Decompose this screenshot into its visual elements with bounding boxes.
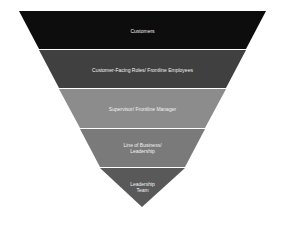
label-supervisor: Supervisor/ Frontline Manager	[0, 106, 285, 112]
label-customers: Customers	[0, 28, 285, 34]
label-line-of-business-2: Leadership	[0, 148, 285, 154]
label-frontline-employees: Customer-Facing Roles/ Frontline Employe…	[0, 67, 285, 73]
label-leadership-team-2: Team	[0, 187, 285, 193]
